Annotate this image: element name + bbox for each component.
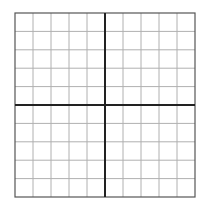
coordinate-grid bbox=[0, 0, 212, 216]
